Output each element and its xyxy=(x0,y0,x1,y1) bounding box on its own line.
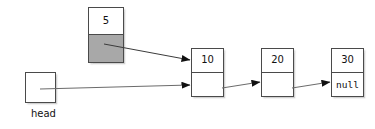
arrow-node-10-to-node-20 xyxy=(222,82,260,88)
arrow-new-node-to-first-node xyxy=(104,44,190,60)
linked-list-diagram: 5 10 20 30 null head xyxy=(0,0,375,129)
arrow-head-to-first-node xyxy=(40,85,190,89)
arrow-layer xyxy=(0,0,375,129)
arrow-node-20-to-node-30 xyxy=(292,82,330,88)
